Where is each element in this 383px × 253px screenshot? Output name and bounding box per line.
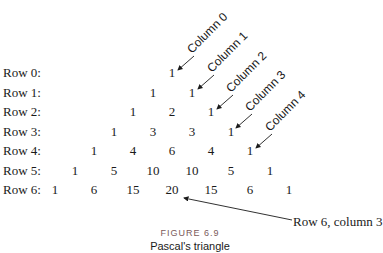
cell-r5-c4: 5 xyxy=(228,164,235,178)
row-label-0: Row 0: xyxy=(3,66,41,80)
row-label-3: Row 3: xyxy=(3,125,41,139)
cell-r3-c0: 1 xyxy=(111,125,118,139)
cell-r0-c0: 1 xyxy=(169,66,176,80)
row-label-6: Row 6: xyxy=(3,183,41,197)
cell-r4-c1: 4 xyxy=(130,144,137,158)
cell-r4-c2: 6 xyxy=(169,144,176,158)
figure-caption: Pascal's triangle xyxy=(0,240,380,252)
row-label-2: Row 2: xyxy=(3,105,41,119)
column-0-arrow xyxy=(178,56,194,70)
cell-r3-c2: 3 xyxy=(189,125,196,139)
column-3-arrow xyxy=(236,114,252,128)
cell-r6-c2: 15 xyxy=(127,183,140,197)
figure-number: FIGURE 6.9 xyxy=(0,228,380,238)
cell-r3-c1: 3 xyxy=(150,125,157,139)
cell-r4-c3: 4 xyxy=(208,144,215,158)
cell-r2-c1: 2 xyxy=(169,105,176,119)
cell-r5-c3: 10 xyxy=(186,164,199,178)
cell-r6-c6: 1 xyxy=(286,183,293,197)
row-label-1: Row 1: xyxy=(3,86,41,100)
cell-r4-c0: 1 xyxy=(91,144,98,158)
column-1-arrow xyxy=(198,75,214,89)
cell-r6-c1: 6 xyxy=(91,183,98,197)
cell-r2-c2: 1 xyxy=(208,105,215,119)
cell-r4-c4: 1 xyxy=(247,144,254,158)
cell-r2-c0: 1 xyxy=(130,105,137,119)
row6-col3-arrow xyxy=(184,198,292,220)
cell-r1-c1: 1 xyxy=(189,86,196,100)
row-label-4: Row 4: xyxy=(3,144,41,158)
column-4-arrow xyxy=(256,134,272,148)
cell-r6-c3: 20 xyxy=(166,183,179,197)
cell-r6-c0: 1 xyxy=(52,183,59,197)
cell-r5-c5: 1 xyxy=(267,164,274,178)
cell-r1-c0: 1 xyxy=(150,86,157,100)
cell-r6-c4: 15 xyxy=(205,183,218,197)
cell-r3-c3: 1 xyxy=(228,125,235,139)
cell-r5-c1: 5 xyxy=(111,164,118,178)
column-2-arrow xyxy=(217,95,233,109)
cell-r6-c5: 6 xyxy=(247,183,254,197)
cell-r5-c2: 10 xyxy=(147,164,160,178)
row-label-5: Row 5: xyxy=(3,164,41,178)
cell-r5-c0: 1 xyxy=(72,164,79,178)
